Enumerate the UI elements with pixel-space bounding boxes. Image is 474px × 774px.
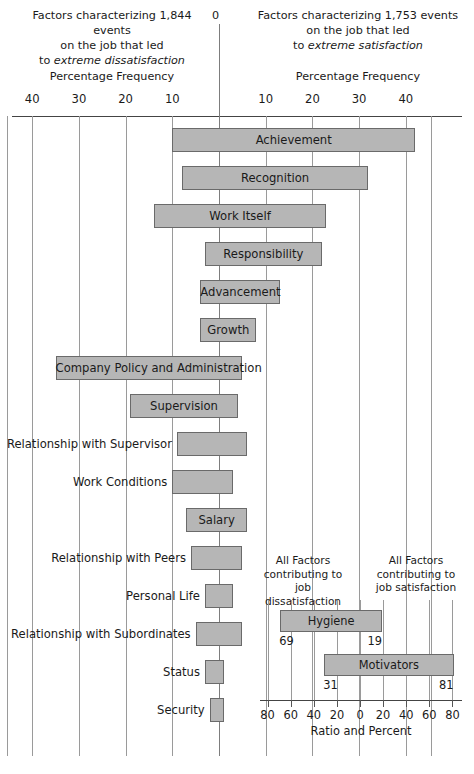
- bar-label: Relationship with Subordinates: [0, 622, 191, 646]
- axis-tick-label: 30: [346, 92, 372, 106]
- inset-left-header-line3: job dissatisfaction: [257, 581, 349, 608]
- bar-label: Responsibility: [205, 242, 322, 266]
- inset-axis-tick-label: 80: [256, 708, 280, 722]
- inset-bar-hygiene[interactable]: Hygiene: [280, 610, 382, 632]
- left-axis-title: Percentage Frequency: [12, 70, 212, 83]
- right-header-line1: Factors characterizing 1,753 events: [252, 8, 464, 23]
- inset-gridline: [268, 600, 269, 700]
- bar-label: Relationship with Peers: [0, 546, 186, 570]
- inset-axis-tick-label: 20: [371, 708, 395, 722]
- right-header: Factors characterizing 1,753 events on t…: [252, 8, 464, 53]
- left-header-line3: to extreme dissatisfaction: [12, 53, 212, 68]
- left-header-line2: on the job that led: [12, 38, 212, 53]
- inset-left-header-line2: contributing to: [257, 568, 349, 582]
- axis-tick-label: 20: [113, 92, 139, 106]
- right-header-line3: to extreme satisfaction: [252, 38, 464, 53]
- right-header-line2: on the job that led: [252, 23, 464, 38]
- inset-axis-tick: [360, 700, 361, 707]
- bar-security[interactable]: [210, 698, 224, 722]
- bar-label: Achievement: [172, 128, 415, 152]
- inset-axis-tick-label: 0: [348, 708, 372, 722]
- inset-chart: All Factors contributing to job dissatis…: [255, 552, 467, 760]
- bar-relationship-with-subordinates[interactable]: [196, 622, 243, 646]
- inset-gridline: [406, 600, 407, 700]
- inset-right-header-line3: job satisfaction: [367, 581, 465, 595]
- bar-label: Relationship with Supervisor: [0, 432, 172, 456]
- bar-relationship-with-supervisor[interactable]: [177, 432, 247, 456]
- axis-tick-label: 40: [393, 92, 419, 106]
- bar-label: Personal Life: [0, 584, 200, 608]
- inset-axis-tick-label: 60: [417, 708, 441, 722]
- inset-bar-motivators[interactable]: Motivators: [324, 654, 453, 676]
- bar-label: Work Conditions: [0, 470, 167, 494]
- inset-bar-left-value: 31: [323, 678, 338, 692]
- chart-root: Factors characterizing 1,844 events on t…: [0, 0, 474, 774]
- left-header-line1: Factors characterizing 1,844 events: [12, 8, 212, 38]
- left-header: Factors characterizing 1,844 events on t…: [12, 8, 212, 68]
- bar-label: Security: [0, 698, 205, 722]
- inset-axis-tick-label: 60: [279, 708, 303, 722]
- right-header-emphasis: extreme satisfaction: [308, 39, 423, 52]
- inset-axis-tick: [291, 700, 292, 707]
- inset-gridline: [383, 600, 384, 700]
- inset-gridline: [429, 600, 430, 700]
- bar-label: Status: [0, 660, 200, 684]
- bar-relationship-with-peers[interactable]: [191, 546, 242, 570]
- axis-tick-label: 30: [66, 92, 92, 106]
- axis-tick-label: 10: [253, 92, 279, 106]
- zero-axis-label: 0: [212, 8, 219, 23]
- bar-status[interactable]: [205, 660, 224, 684]
- inset-left-header-line1: All Factors: [257, 554, 349, 568]
- inset-bar-right-value: 19: [364, 634, 382, 648]
- inset-axis-tick: [429, 700, 430, 707]
- bar-label: Growth: [200, 318, 256, 342]
- inset-x-axis-title: Ratio and Percent: [260, 724, 462, 738]
- inset-axis-tick: [406, 700, 407, 707]
- inset-axis-tick: [314, 700, 315, 707]
- bar-label: Recognition: [182, 166, 369, 190]
- right-axis-title: Percentage Frequency: [252, 70, 464, 83]
- inset-axis-tick: [452, 700, 453, 707]
- inset-right-header-line2: contributing to: [367, 568, 465, 582]
- inset-axis-tick: [337, 700, 338, 707]
- inset-left-header: All Factors contributing to job dissatis…: [257, 554, 349, 608]
- bar-work-conditions[interactable]: [172, 470, 233, 494]
- axis-tick-label: 10: [159, 92, 185, 106]
- bar-label: Work Itself: [154, 204, 327, 228]
- left-header-emphasis: extreme dissatisfaction: [54, 54, 185, 67]
- inset-axis-tick-label: 80: [440, 708, 464, 722]
- bar-label: Salary: [186, 508, 247, 532]
- axis-tick-label: 20: [299, 92, 325, 106]
- inset-right-header: All Factors contributing to job satisfac…: [367, 554, 465, 595]
- bar-label: Company Policy and Administration: [56, 356, 243, 380]
- inset-axis-tick: [383, 700, 384, 707]
- bar-personal-life[interactable]: [205, 584, 233, 608]
- inset-axis-tick-label: 40: [394, 708, 418, 722]
- inset-bar-right-value: 81: [436, 678, 454, 692]
- inset-axis-tick-label: 40: [302, 708, 326, 722]
- inset-right-header-line1: All Factors: [367, 554, 465, 568]
- bar-label: Supervision: [130, 394, 237, 418]
- inset-axis-tick-label: 20: [325, 708, 349, 722]
- axis-tick-label: 40: [19, 92, 45, 106]
- inset-bar-left-value: 69: [279, 634, 294, 648]
- inset-axis-tick: [268, 700, 269, 707]
- bar-label: Advancement: [200, 280, 279, 304]
